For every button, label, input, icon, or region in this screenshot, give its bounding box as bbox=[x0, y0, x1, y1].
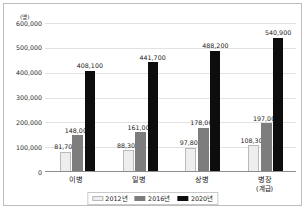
chart-frame: (명) 600,000500,000400,000300,000200,0001… bbox=[3, 3, 302, 206]
legend-label: 2012년 bbox=[105, 194, 127, 203]
bar-병장-2012년[interactable] bbox=[248, 145, 259, 172]
legend-item-2020년[interactable]: 2020년 bbox=[177, 194, 213, 203]
bar-일병-2016년[interactable] bbox=[135, 132, 146, 172]
bar-병장-2016년[interactable] bbox=[261, 123, 272, 172]
plot-area: 81,700148,000408,10088,300161,000441,700… bbox=[45, 23, 296, 172]
legend-swatch-icon bbox=[92, 196, 103, 201]
bar-이병-2016년[interactable] bbox=[72, 135, 83, 172]
bar-상병-2020년[interactable] bbox=[210, 51, 220, 172]
chart-legend: 2012년2016년2020년 bbox=[87, 192, 218, 205]
bar-병장-2020년[interactable] bbox=[273, 38, 283, 172]
legend-swatch-icon bbox=[177, 196, 188, 201]
legend-label: 2016년 bbox=[148, 194, 170, 203]
bar-group: 108,300197,000540,900 bbox=[233, 23, 296, 172]
bar-value-label: 540,900 bbox=[265, 29, 291, 36]
y-axis-tick-label: 200,000 bbox=[4, 119, 42, 126]
legend-item-2012년[interactable]: 2012년 bbox=[92, 194, 128, 203]
y-axis-tick-label: 0 bbox=[4, 169, 42, 176]
x-axis-label-이병: 이병 bbox=[69, 174, 83, 184]
bar-value-label: 441,700 bbox=[140, 54, 166, 61]
bar-group: 97,800178,000488,200 bbox=[171, 23, 234, 172]
y-axis-tick-label: 600,000 bbox=[4, 20, 42, 27]
bar-일병-2012년[interactable] bbox=[123, 150, 134, 172]
y-axis-tick-labels: 600,000500,000400,000300,000200,000100,0… bbox=[4, 23, 42, 172]
y-axis-tick-label: 300,000 bbox=[4, 94, 42, 101]
bar-group: 88,300161,000441,700 bbox=[108, 23, 171, 172]
legend-swatch-icon bbox=[135, 196, 146, 201]
bar-이병-2012년[interactable] bbox=[60, 152, 71, 172]
bar-상병-2012년[interactable] bbox=[185, 148, 196, 172]
x-axis-title: (계급) bbox=[256, 183, 273, 193]
legend-label: 2020년 bbox=[191, 194, 213, 203]
x-axis-label-상병: 상병 bbox=[195, 174, 209, 184]
y-axis-tick-label: 500,000 bbox=[4, 44, 42, 51]
legend-item-2016년[interactable]: 2016년 bbox=[135, 194, 171, 203]
x-axis-line bbox=[45, 171, 296, 172]
bar-value-label: 488,200 bbox=[202, 42, 228, 49]
y-axis-tick-label: 400,000 bbox=[4, 69, 42, 76]
bar-value-label: 408,100 bbox=[77, 62, 103, 69]
bar-이병-2020년[interactable] bbox=[85, 71, 95, 172]
x-axis-label-일병: 일병 bbox=[132, 174, 146, 184]
bar-상병-2016년[interactable] bbox=[198, 128, 209, 172]
y-axis-tick-label: 100,000 bbox=[4, 144, 42, 151]
bar-group: 81,700148,000408,100 bbox=[45, 23, 108, 172]
bar-일병-2020년[interactable] bbox=[148, 62, 158, 172]
